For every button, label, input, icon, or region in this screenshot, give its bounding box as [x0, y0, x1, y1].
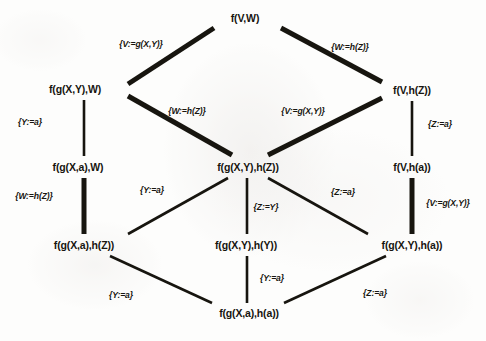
lattice-node-left2: f(g(X,a),W): [53, 161, 104, 173]
lattice-node-top: f(V,W): [231, 12, 259, 24]
lattice-node-right3: f(g(X,Y),h(a)): [382, 239, 443, 251]
lattice-node-left3: f(g(X,a),h(Z)): [54, 239, 114, 251]
substitution-lattice-diagram: f(V,W)f(g(X,Y),W)f(V,h(Z))f(g(X,a),W)f(g…: [0, 0, 486, 341]
substitution-label: {Z:=a}: [331, 187, 355, 197]
lattice-node-bottom: f(g(X,a),h(a)): [219, 307, 279, 319]
substitution-label: {Z:=Y}: [254, 202, 279, 212]
substitution-label: {Y:=a}: [18, 117, 42, 127]
lattice-node-center: f(g(X,Y),h(Z)): [217, 161, 278, 173]
lattice-edge: [281, 28, 382, 82]
substitution-label: {W:=h(Z)}: [15, 191, 53, 201]
substitution-label: {Z:=a}: [428, 119, 452, 129]
substitution-label: {Y:=a}: [109, 290, 133, 300]
lattice-node-right2: f(V,h(a)): [393, 161, 430, 173]
substitution-label: {V:=g(X,Y)}: [281, 106, 325, 116]
substitution-label: {W:=h(Z)}: [331, 42, 369, 52]
lattice-edge: [128, 96, 232, 155]
substitution-label: {V:=g(X,Y)}: [119, 39, 163, 49]
lattice-node-center3: f(g(X,Y),h(Y)): [215, 239, 277, 251]
substitution-label: {W:=h(Z)}: [168, 106, 206, 116]
lattice-edge: [128, 28, 214, 84]
substitution-label: {V:=g(X,Y)}: [426, 198, 470, 208]
substitution-label: {Y:=a}: [260, 273, 284, 283]
substitution-label: {Z:=a}: [363, 288, 387, 298]
lattice-node-right1: f(V,h(Z)): [393, 84, 431, 96]
lattice-node-left1: f(g(X,Y),W): [49, 83, 101, 95]
substitution-label: {Y:=a}: [140, 185, 164, 195]
